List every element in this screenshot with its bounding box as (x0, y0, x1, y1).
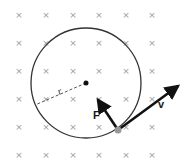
field-cross-mark: × (69, 38, 77, 48)
charged-particle (115, 127, 122, 134)
field-cross-mark: × (148, 66, 156, 76)
field-cross-mark: × (15, 150, 23, 160)
field-cross-mark: × (42, 150, 50, 160)
force-label: F (93, 109, 100, 121)
field-cross-mark: × (15, 122, 23, 132)
field-cross-mark: × (148, 10, 156, 20)
field-cross-mark: × (95, 150, 103, 160)
field-cross-mark: × (122, 94, 130, 104)
field-cross-mark: × (69, 66, 77, 76)
magnetic-field-circular-motion-diagram: ×××××××××××××××××××××××××××××××××××× r F… (0, 0, 182, 167)
field-cross-mark: × (95, 10, 103, 20)
field-cross-mark: × (148, 38, 156, 48)
field-cross-mark: × (95, 66, 103, 76)
field-cross-mark: × (122, 10, 130, 20)
field-cross-mark: × (69, 94, 77, 104)
field-cross-mark: × (95, 38, 103, 48)
field-cross-mark: × (15, 94, 23, 104)
field-cross-mark: × (122, 150, 130, 160)
field-cross-mark: × (15, 66, 23, 76)
field-cross-mark: × (15, 10, 23, 20)
field-cross-mark: × (42, 10, 50, 20)
field-cross-mark: × (148, 122, 156, 132)
field-cross-mark: × (69, 10, 77, 20)
field-cross-mark: × (148, 150, 156, 160)
orbit-center-dot (84, 81, 89, 86)
field-cross-mark: × (69, 150, 77, 160)
field-cross-mark: × (15, 38, 23, 48)
field-cross-mark: × (42, 66, 50, 76)
velocity-label: v (158, 98, 165, 110)
field-cross-mark: × (69, 122, 77, 132)
field-cross-mark: × (122, 66, 130, 76)
field-cross-mark: × (95, 122, 103, 132)
